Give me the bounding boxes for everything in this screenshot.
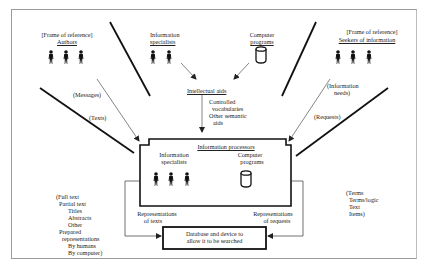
programs-top-line2: programs	[244, 39, 280, 46]
seekers-frame-label: [Frame of reference]	[330, 29, 414, 36]
intellectual-aids-title: Intellectual aids	[187, 88, 226, 95]
text-form-item: By computer)	[68, 250, 102, 257]
database-line2: allow it to be searched	[164, 238, 265, 245]
specialists-top-person-icons	[151, 50, 172, 63]
rep-requests-line2: of requests	[252, 218, 302, 225]
processors-title: Information processors	[186, 144, 266, 151]
seekers-person-icons	[336, 50, 372, 63]
processors-specialists-line2: specialists	[152, 159, 196, 166]
information-needs-label-2: needs)	[334, 90, 350, 97]
specialists-top-line2: specialists	[150, 39, 175, 46]
messages-label: (Messages)	[73, 92, 101, 99]
request-form-item: Items)	[349, 211, 365, 218]
requests-label: (Requests)	[314, 114, 340, 121]
authors-title: Authors	[31, 39, 103, 46]
seekers-title: Seekers of information	[322, 37, 412, 44]
authors-person-icons	[49, 50, 84, 63]
rep-texts-line2: of texts	[128, 218, 178, 225]
processors-programs-line2: programs	[232, 159, 272, 166]
aid-item: aids	[213, 120, 223, 127]
texts-label: (Texts)	[89, 115, 106, 122]
computer-programs-top-icon	[256, 47, 266, 63]
